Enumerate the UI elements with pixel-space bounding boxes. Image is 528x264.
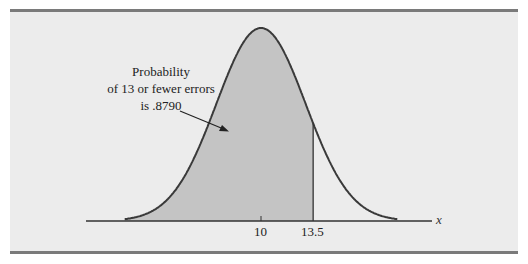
annotation-line-2: of 13 or fewer errors — [96, 80, 226, 97]
probability-annotation: Probability of 13 or fewer errors is .87… — [96, 63, 226, 114]
annotation-line-3: is .8790 — [96, 97, 226, 114]
shaded-area — [125, 28, 314, 221]
x-axis-label: x — [436, 212, 442, 228]
tick-label-mean: 10 — [254, 224, 267, 240]
annotation-line-1: Probability — [96, 63, 226, 80]
tick-label-cutoff: 13.5 — [301, 224, 324, 240]
